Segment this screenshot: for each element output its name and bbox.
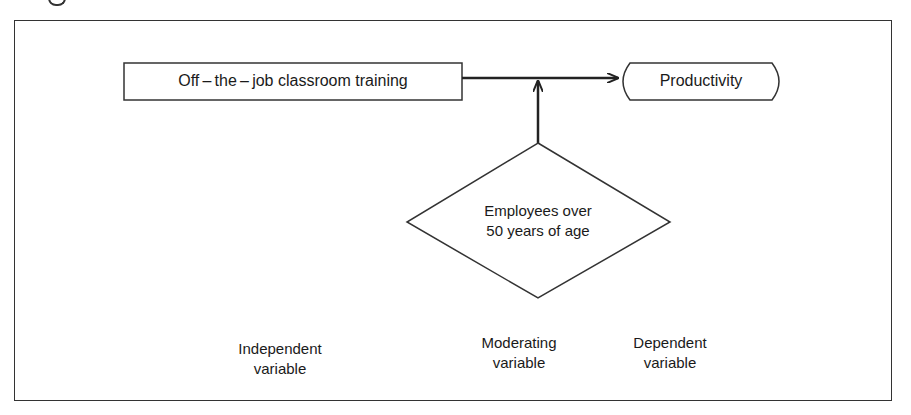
caption-dependent: Dependent variable bbox=[610, 333, 730, 373]
caption-moderating-line2: variable bbox=[459, 353, 579, 373]
moderator-label: Employees over 50 years of age bbox=[448, 201, 628, 241]
caption-dependent-line1: Dependent bbox=[610, 333, 730, 353]
moderator-label-line1: Employees over bbox=[448, 201, 628, 221]
caption-independent-line1: Independent bbox=[220, 339, 340, 359]
caption-moderating-line1: Moderating bbox=[459, 333, 579, 353]
moderator-label-line2: 50 years of age bbox=[448, 221, 628, 241]
dependent-variable-label: Productivity bbox=[620, 71, 782, 91]
caption-independent: Independent variable bbox=[220, 339, 340, 379]
caption-dependent-line2: variable bbox=[610, 353, 730, 373]
caption-independent-line2: variable bbox=[220, 359, 340, 379]
independent-variable-label: Off – the – job classroom training bbox=[124, 71, 462, 91]
caption-moderating: Moderating variable bbox=[459, 333, 579, 373]
